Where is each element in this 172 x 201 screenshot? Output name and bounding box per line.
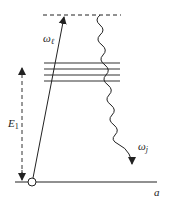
ground-state-circle <box>28 178 36 186</box>
omega-l-label: ωℓ <box>43 32 55 46</box>
intermediate-levels <box>44 63 120 81</box>
energy-label: E1 <box>7 117 19 131</box>
omega-j-label: ωj <box>138 140 149 154</box>
energy-level-diagram: ωℓ E1 ωj a <box>0 0 172 201</box>
emission-wavy-arrow <box>97 15 132 164</box>
state-a-label: a <box>154 186 160 198</box>
